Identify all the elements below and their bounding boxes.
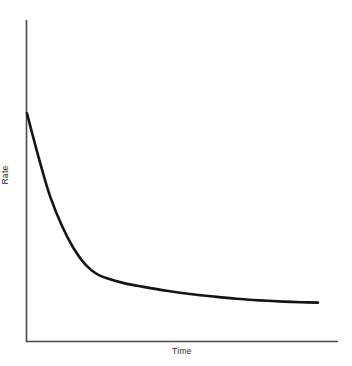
x-axis-label: Time <box>132 346 232 356</box>
plot-canvas <box>0 0 352 366</box>
decay-curve-path <box>27 113 318 302</box>
chart-figure: Rate Time <box>0 0 352 366</box>
y-axis-label: Rate <box>0 160 10 190</box>
